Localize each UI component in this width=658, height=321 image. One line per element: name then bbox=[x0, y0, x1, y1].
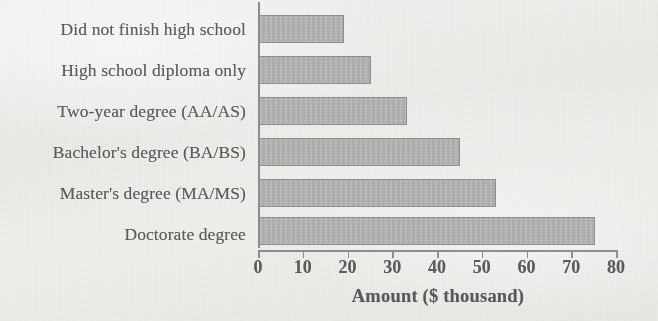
category-label-two-year-degree: Two-year degree (AA/AS) bbox=[57, 103, 246, 121]
category-label-did-not-finish-high-school: Did not finish high school bbox=[61, 21, 246, 39]
plot-area bbox=[258, 0, 630, 248]
category-label-high-school-diploma-only: High school diploma only bbox=[61, 62, 246, 80]
bar-masters-degree bbox=[259, 179, 496, 207]
bar-did-not-finish-high-school bbox=[259, 15, 344, 43]
x-axis-tick-label-30: 30 bbox=[372, 258, 412, 276]
x-axis-tick-label-10: 10 bbox=[283, 258, 323, 276]
bar-chart: Did not finish high school High school d… bbox=[0, 0, 658, 321]
x-axis-tick-label-40: 40 bbox=[417, 258, 457, 276]
x-axis-title: Amount ($ thousand) bbox=[258, 286, 618, 307]
bar-two-year-degree bbox=[259, 97, 407, 125]
category-label-doctorate-degree: Doctorate degree bbox=[124, 226, 246, 244]
bar-doctorate-degree bbox=[259, 217, 595, 245]
category-label-masters-degree: Master's degree (MA/MS) bbox=[60, 185, 246, 203]
x-axis-tick-label-50: 50 bbox=[462, 258, 502, 276]
x-axis-tick-label-80: 80 bbox=[596, 258, 636, 276]
x-axis-tick-label-70: 70 bbox=[551, 258, 591, 276]
category-axis-labels: Did not finish high school High school d… bbox=[0, 0, 252, 248]
category-label-bachelors-degree: Bachelor's degree (BA/BS) bbox=[53, 144, 246, 162]
x-axis-tick-label-20: 20 bbox=[328, 258, 368, 276]
x-axis-tick-label-60: 60 bbox=[507, 258, 547, 276]
bar-high-school-diploma-only bbox=[259, 56, 371, 84]
x-axis-tick-label-0: 0 bbox=[238, 258, 278, 276]
bar-bachelors-degree bbox=[259, 138, 460, 166]
